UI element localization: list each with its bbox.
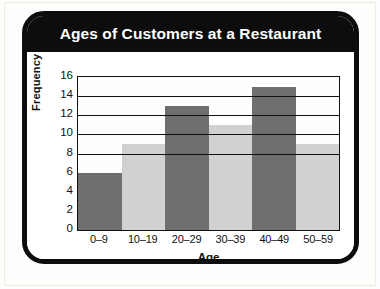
chart-title: Ages of Customers at a Restaurant <box>60 26 322 42</box>
y-tick-label: 8 <box>49 147 73 159</box>
y-tick-label: 4 <box>49 185 73 197</box>
y-tick-label: 14 <box>49 89 73 101</box>
chart-card: Ages of Customers at a Restaurant Freque… <box>22 11 359 264</box>
bar <box>209 125 253 230</box>
y-tick-label: 0 <box>49 223 73 235</box>
chart-body: Frequency 1614121086420 0–910–1920–2930–… <box>27 53 354 259</box>
x-axis-ticks: 0–910–1920–2930–3940–4950–59 <box>77 233 340 245</box>
x-tick-label: 40–49 <box>252 233 296 245</box>
y-tick-label: 2 <box>49 204 73 216</box>
x-axis-label: Age <box>77 251 340 263</box>
y-tick-label: 16 <box>49 70 73 82</box>
gridline <box>78 154 339 155</box>
bar <box>296 144 340 230</box>
chart-title-banner: Ages of Customers at a Restaurant <box>26 15 355 52</box>
x-tick-label: 0–9 <box>77 233 121 245</box>
bar <box>122 144 166 230</box>
bar <box>252 87 296 230</box>
x-tick-label: 20–29 <box>165 233 209 245</box>
plot-area <box>77 76 340 231</box>
y-axis-ticks: 1614121086420 <box>45 53 73 259</box>
bar <box>165 106 209 230</box>
gridline <box>78 134 339 135</box>
gridline <box>78 96 339 97</box>
y-axis-label: Frequency <box>30 54 42 111</box>
y-tick-label: 6 <box>49 166 73 178</box>
bar <box>78 173 122 230</box>
y-tick-label: 12 <box>49 108 73 120</box>
x-tick-label: 50–59 <box>296 233 340 245</box>
x-tick-label: 30–39 <box>208 233 252 245</box>
gridline <box>78 115 339 116</box>
y-tick-label: 10 <box>49 127 73 139</box>
x-tick-label: 10–19 <box>121 233 165 245</box>
